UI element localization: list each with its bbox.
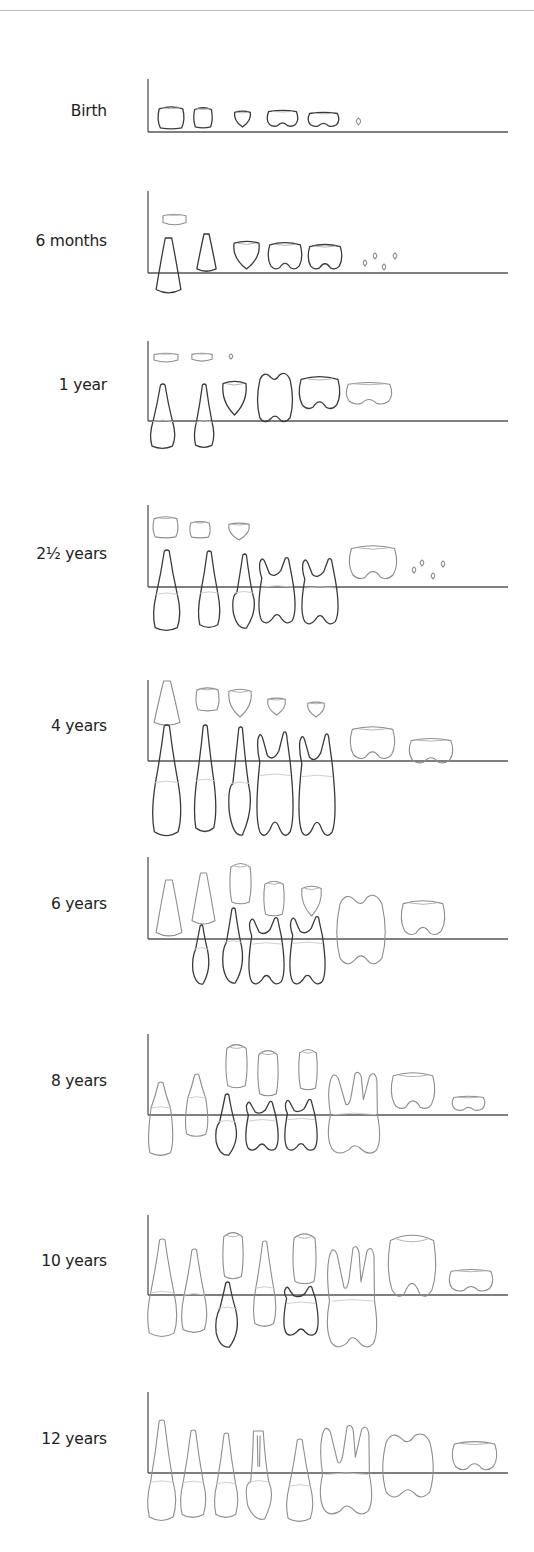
tooth-outline [215, 1433, 238, 1517]
tooth-outline [287, 1439, 313, 1521]
dentition-diagram [0, 0, 534, 1552]
permanent-tooth [320, 1426, 371, 1514]
tooth-outline [383, 1434, 433, 1497]
tooth-outline [246, 1431, 271, 1519]
tooth-outline [452, 1442, 496, 1470]
permanent-tooth [383, 1434, 433, 1497]
cemento-enamel-junction [183, 1481, 204, 1483]
cemento-enamel-junction [289, 1485, 311, 1487]
cemento-enamel-junction [150, 1481, 174, 1483]
tooth-outline [181, 1430, 206, 1517]
permanent-tooth [215, 1433, 238, 1517]
permanent-tooth [246, 1431, 271, 1519]
permanent-tooth [148, 1420, 176, 1520]
occlusal-edge [460, 1443, 489, 1444]
cemento-enamel-junction [216, 1482, 236, 1484]
tooth-outline [320, 1426, 371, 1514]
permanent-tooth [287, 1439, 313, 1521]
tooth-outline [148, 1420, 176, 1520]
permanent-tooth [452, 1442, 496, 1470]
permanent-tooth [181, 1430, 206, 1517]
